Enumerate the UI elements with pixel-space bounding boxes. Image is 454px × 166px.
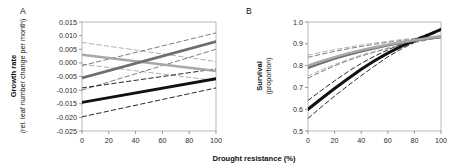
x-tick-label-B-2: 40 [357,136,365,145]
y-tick-label-B-5: 0.5 [293,127,303,136]
y-tick-label-A-1: 0.010 [59,31,77,40]
figure-container: 0.0150.0100.0050.000-0.005-0.010-0.015-0… [0,0,454,166]
y-tick-label-A-4: -0.005 [57,72,77,81]
two-panel-chart: 0.0150.0100.0050.000-0.005-0.010-0.015-0… [0,0,454,166]
x-tick-label-A-1: 20 [105,136,113,145]
y-tick-label-A-8: -0.025 [57,127,77,136]
panel-label-A: A [20,6,26,16]
x-tick-label-B-4: 80 [410,136,418,145]
x-tick-label-A-3: 60 [158,136,166,145]
x-tick-label-A-5: 100 [210,136,222,145]
y-axis-subtitle-B: (proportion) [264,57,273,94]
x-tick-label-A-4: 80 [185,136,193,145]
panel-B: 1.00.90.80.70.60.5020406080100BSurvival(… [246,6,447,145]
y-axis-title-A: Growth rate [9,55,18,98]
y-tick-label-A-6: -0.015 [57,99,77,108]
y-tick-label-A-0: 0.015 [59,18,77,27]
y-tick-label-B-0: 1.0 [293,18,303,27]
x-tick-label-B-5: 100 [435,136,447,145]
x-tick-label-B-3: 60 [384,136,392,145]
y-tick-label-A-2: 0.005 [59,45,77,54]
y-tick-label-A-7: -0.020 [57,113,77,122]
x-tick-label-B-0: 0 [306,136,310,145]
panel-A: 0.0150.0100.0050.000-0.005-0.010-0.015-0… [9,6,222,145]
panel-label-B: B [246,6,252,16]
y-axis-subtitle-A: (rel. leaf number change per month) [18,19,27,134]
y-tick-label-B-3: 0.7 [293,83,303,92]
x-tick-label-B-1: 20 [331,136,339,145]
y-tick-label-A-5: -0.010 [57,86,77,95]
y-tick-label-B-2: 0.8 [293,61,303,70]
y-tick-label-A-3: 0.000 [59,58,77,67]
x-tick-label-A-0: 0 [80,136,84,145]
plot-area-A [82,22,216,131]
y-tick-label-B-4: 0.6 [293,105,303,114]
x-axis-title: Drought resistance (%) [212,154,296,163]
x-tick-label-A-2: 40 [132,136,140,145]
y-axis-title-B: Survival [255,61,264,91]
y-tick-label-B-1: 0.9 [293,39,303,48]
